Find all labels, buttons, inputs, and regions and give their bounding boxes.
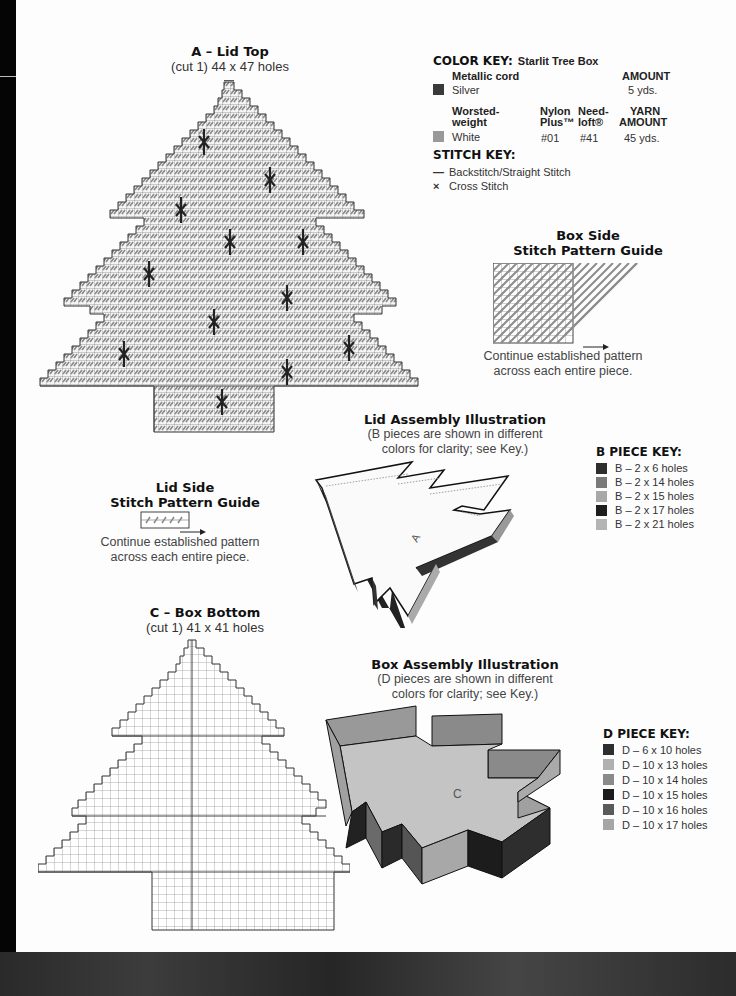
piece-c-label: C	[453, 787, 462, 801]
lid-top-subtitle: (cut 1) 44 x 47 holes	[130, 59, 330, 74]
lid-assembly-caption-2: colors for clarity; see Key.)	[340, 442, 570, 457]
swatch-icon	[603, 804, 614, 815]
silver-label: Silver	[452, 84, 480, 96]
b-piece-key-list: B – 2 x 6 holes B – 2 x 14 holes B – 2 x…	[596, 461, 694, 531]
cross-stitch-icon: ×	[433, 180, 449, 192]
b-piece-label: B – 2 x 14 holes	[615, 476, 694, 488]
silver-swatch	[433, 84, 444, 95]
d-piece-label: D – 6 x 10 holes	[622, 744, 702, 756]
stitch-key-item: × Cross Stitch	[433, 179, 571, 193]
d-piece-label: D – 10 x 16 holes	[622, 804, 708, 816]
box-side-title-1: Box Side	[488, 228, 688, 243]
d-piece-label: D – 10 x 14 holes	[622, 774, 708, 786]
swatch-icon	[603, 759, 614, 770]
swatch-icon	[596, 505, 607, 516]
swatch-icon	[603, 744, 614, 755]
metallic-header: Metallic cord	[452, 70, 519, 82]
box-assembly-caption-1: (D pieces are shown in different	[350, 672, 580, 687]
d-piece-key-list: D – 6 x 10 holes D – 10 x 13 holes D – 1…	[603, 742, 708, 832]
d-piece-key-item: D – 10 x 14 holes	[603, 772, 708, 787]
lid-top-tree	[38, 80, 422, 436]
d-piece-key-item: D – 10 x 17 holes	[603, 817, 708, 832]
swatch-icon	[596, 477, 607, 488]
box-bottom-subtitle: (cut 1) 41 x 41 holes	[105, 620, 305, 635]
swatch-icon	[603, 789, 614, 800]
lid-side-pattern	[140, 511, 220, 535]
page-edge-mark	[0, 76, 16, 77]
b-piece-key-item: B – 2 x 14 holes	[596, 475, 694, 489]
swatch-icon	[596, 491, 607, 502]
b-piece-label: B – 2 x 6 holes	[615, 462, 688, 474]
swatch-icon	[596, 463, 607, 474]
lid-top-title: A – Lid Top	[130, 44, 330, 59]
color-key: COLOR KEY: Starlit Tree Box	[433, 54, 733, 68]
white-amount: 45 yds.	[624, 132, 659, 144]
box-side-caption-2: across each entire piece.	[468, 364, 658, 379]
swatch-icon	[603, 819, 614, 830]
color-key-heading: COLOR KEY:	[433, 54, 513, 68]
lid-assembly-title: Lid Assembly Illustration	[340, 412, 570, 427]
d-piece-key-heading: D PIECE KEY:	[603, 727, 690, 741]
d-piece-key-item: D – 6 x 10 holes	[603, 742, 708, 757]
worsted-header-2: weight	[452, 116, 487, 128]
b-piece-label: B – 2 x 21 holes	[615, 518, 694, 530]
nylon-header-2: Plus™	[540, 116, 574, 128]
lid-assembly-caption-1: (B pieces are shown in different	[340, 427, 570, 442]
lid-side-title-1: Lid Side	[85, 480, 285, 495]
d-piece-key-item: D – 10 x 13 holes	[603, 757, 708, 772]
d-piece-label: D – 10 x 13 holes	[622, 759, 708, 771]
b-piece-key-item: B – 2 x 15 holes	[596, 489, 694, 503]
b-piece-label: B – 2 x 17 holes	[615, 504, 694, 516]
stitch-key-item: — Backstitch/Straight Stitch	[433, 165, 571, 179]
box-bottom-tree	[38, 638, 350, 940]
stitch-key-label: Backstitch/Straight Stitch	[449, 166, 571, 178]
swatch-icon	[603, 774, 614, 785]
box-side-title-2: Stitch Pattern Guide	[488, 243, 688, 258]
lid-assembly-illustration: A	[312, 458, 582, 628]
box-side-caption-1: Continue established pattern	[468, 349, 658, 364]
b-piece-key-item: B – 2 x 6 holes	[596, 461, 694, 475]
box-assembly-title: Box Assembly Illustration	[350, 657, 580, 672]
white-label: White	[452, 131, 480, 143]
yarn-header-2: AMOUNT	[619, 116, 667, 128]
white-swatch	[433, 131, 444, 142]
box-assembly-illustration: C	[322, 702, 584, 892]
page-edge-bottom	[0, 952, 736, 996]
needloft-header-2: loft®	[578, 116, 603, 128]
d-piece-label: D – 10 x 17 holes	[622, 819, 708, 831]
white-needloft-code: #41	[580, 132, 598, 144]
stitch-key-label: Cross Stitch	[449, 180, 508, 192]
b-piece-key-item: B – 2 x 17 holes	[596, 503, 694, 517]
silver-amount: 5 yds.	[628, 84, 657, 96]
lid-side-caption-1: Continue established pattern	[80, 535, 280, 550]
white-nylon-code: #01	[541, 132, 559, 144]
stitch-key-heading: STITCH KEY:	[433, 148, 515, 162]
lid-side-caption-2: across each entire piece.	[80, 550, 280, 565]
d-piece-label: D – 10 x 15 holes	[622, 789, 708, 801]
backstitch-icon: —	[433, 166, 449, 178]
metallic-amount-header: AMOUNT	[622, 70, 670, 82]
lid-side-title-2: Stitch Pattern Guide	[85, 495, 285, 510]
page-edge-left	[0, 0, 16, 952]
d-piece-key-item: D – 10 x 16 holes	[603, 802, 708, 817]
box-side-pattern	[493, 263, 643, 353]
box-bottom-title: C – Box Bottom	[105, 605, 305, 620]
swatch-icon	[596, 519, 607, 530]
box-assembly-caption-2: colors for clarity; see Key.)	[350, 687, 580, 702]
b-piece-key-heading: B PIECE KEY:	[596, 445, 682, 459]
b-piece-key-item: B – 2 x 21 holes	[596, 517, 694, 531]
stitch-key-list: — Backstitch/Straight Stitch × Cross Sti…	[433, 165, 571, 193]
b-piece-label: B – 2 x 15 holes	[615, 490, 694, 502]
d-piece-key-item: D – 10 x 15 holes	[603, 787, 708, 802]
color-key-project: Starlit Tree Box	[518, 55, 599, 67]
